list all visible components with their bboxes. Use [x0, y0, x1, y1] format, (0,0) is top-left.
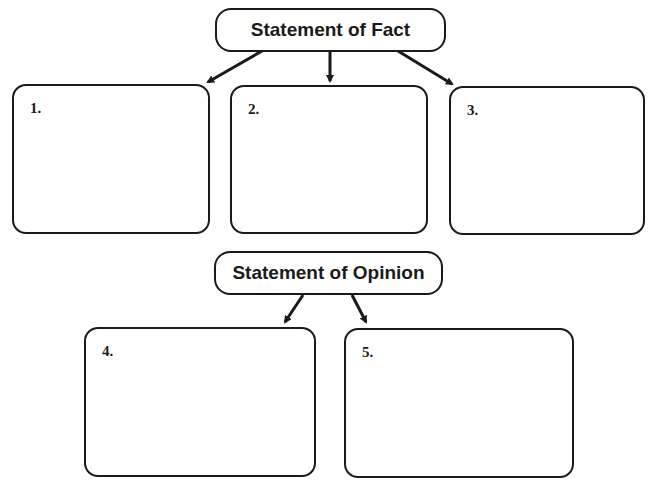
- box-number: 4.: [102, 343, 113, 360]
- box-number: 2.: [248, 101, 259, 118]
- fact-heading-box: Statement of Fact: [215, 8, 446, 52]
- arrow-fact-to-1: [208, 51, 262, 82]
- arrow-opinion-to-5: [352, 295, 366, 322]
- opinion-box-4[interactable]: 4.: [84, 327, 316, 477]
- box-number: 5.: [362, 344, 373, 361]
- fact-heading: Statement of Fact: [251, 19, 410, 41]
- opinion-heading: Statement of Opinion: [232, 262, 424, 284]
- opinion-heading-box: Statement of Opinion: [214, 251, 443, 295]
- fact-box-2[interactable]: 2.: [230, 85, 428, 234]
- arrow-fact-to-3: [398, 51, 452, 84]
- opinion-box-5[interactable]: 5.: [344, 328, 574, 478]
- fact-box-3[interactable]: 3.: [449, 86, 645, 235]
- box-number: 1.: [30, 100, 41, 117]
- box-number: 3.: [467, 102, 478, 119]
- arrow-opinion-to-4: [285, 295, 303, 322]
- fact-box-1[interactable]: 1.: [12, 84, 210, 234]
